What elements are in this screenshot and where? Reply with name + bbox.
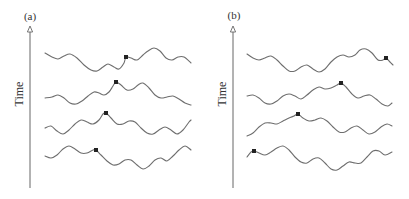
panel-label: (a) <box>24 10 37 23</box>
wave-line <box>247 83 392 106</box>
wave-line <box>247 114 392 136</box>
square-marker-icon <box>94 148 98 152</box>
wave-line <box>45 113 191 134</box>
panel-label: (b) <box>228 9 241 22</box>
panel-b: (b) Time <box>215 9 393 188</box>
square-marker-icon <box>114 80 118 84</box>
square-marker-icon <box>104 111 108 115</box>
panel-a: (a) Time <box>12 10 191 188</box>
wave-line <box>247 146 392 170</box>
wave-line <box>45 146 191 169</box>
time-axis-label: Time <box>12 82 26 107</box>
square-marker-icon <box>252 149 256 153</box>
square-marker-icon <box>124 55 128 59</box>
time-axis-label: Time <box>215 82 229 107</box>
arrow-up-icon <box>230 26 235 32</box>
wave-line <box>247 49 393 72</box>
arrow-up-icon <box>27 26 32 32</box>
wave-rows <box>45 48 191 169</box>
square-marker-icon <box>296 112 300 116</box>
wave-line <box>45 48 191 71</box>
wave-diagram: (a) Time (b) Time <box>0 0 409 199</box>
square-marker-icon <box>384 56 388 60</box>
wave-rows <box>247 49 393 170</box>
square-marker-icon <box>339 81 343 85</box>
wave-line <box>45 82 191 105</box>
